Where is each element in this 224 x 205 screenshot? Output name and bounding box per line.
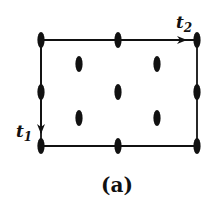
figure-caption: (a)	[101, 173, 133, 197]
lattice-points	[37, 32, 200, 154]
lattice-point-icon	[153, 110, 160, 126]
lattice-diagram: t2 t1 (a)	[0, 0, 224, 205]
lattice-point-icon	[37, 138, 44, 154]
lattice-point-icon	[193, 84, 200, 100]
lattice-point-icon	[75, 56, 82, 72]
lattice-point-icon	[114, 84, 121, 100]
lattice-point-icon	[37, 32, 44, 48]
lattice-point-icon	[75, 110, 82, 126]
vector-t2-label: t2	[176, 12, 192, 35]
lattice-point-icon	[193, 32, 200, 48]
lattice-point-icon	[37, 84, 44, 100]
lattice-point-icon	[193, 138, 200, 154]
lattice-point-icon	[114, 32, 121, 48]
vector-t1-label: t1	[16, 121, 32, 144]
lattice-point-icon	[153, 56, 160, 72]
lattice-point-icon	[114, 138, 121, 154]
